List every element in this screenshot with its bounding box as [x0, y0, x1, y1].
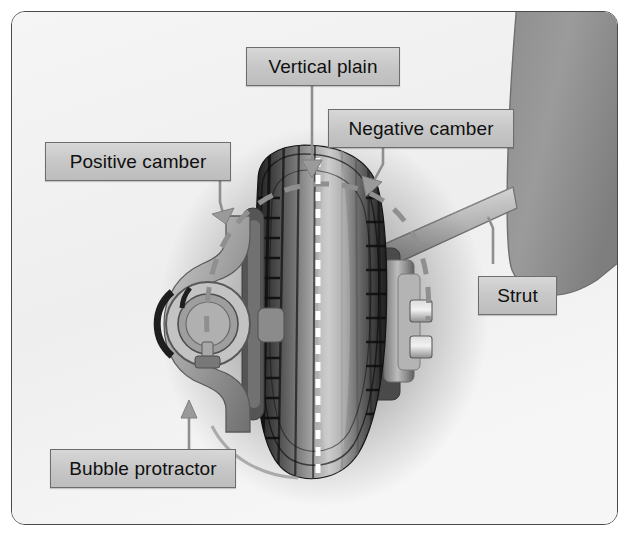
diagram-frame: Positive camber Vertical plain Negative … — [11, 11, 618, 525]
callout-negative-camber-label: Negative camber — [348, 119, 493, 138]
callout-strut-label: Strut — [497, 286, 538, 305]
callout-positive-camber-label: Positive camber — [70, 152, 207, 171]
callout-negative-camber: Negative camber — [328, 109, 514, 148]
vehicle-body-panel — [507, 12, 618, 295]
callout-strut: Strut — [478, 276, 557, 315]
camber-diagram-figure: Positive camber Vertical plain Negative … — [0, 0, 629, 536]
callout-vertical-plain-label: Vertical plain — [268, 57, 377, 76]
callout-vertical-plain: Vertical plain — [246, 47, 400, 86]
callout-positive-camber: Positive camber — [45, 142, 231, 181]
callout-bubble-protractor-label: Bubble protractor — [69, 459, 216, 478]
callout-bubble-protractor: Bubble protractor — [50, 449, 236, 488]
